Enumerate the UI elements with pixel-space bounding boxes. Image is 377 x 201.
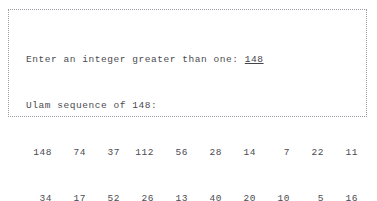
prompt-line: Enter an integer greater than one: 148 (26, 54, 358, 66)
console-output-text: Enter an integer greater than one: 148 U… (26, 19, 358, 128)
user-input-value[interactable]: 148 (245, 54, 264, 65)
prompt-label: Enter an integer greater than one: (26, 54, 245, 65)
console-output-frame: Enter an integer greater than one: 148 U… (8, 9, 367, 117)
sequence-header-line: Ulam sequence of 148: (26, 100, 358, 112)
